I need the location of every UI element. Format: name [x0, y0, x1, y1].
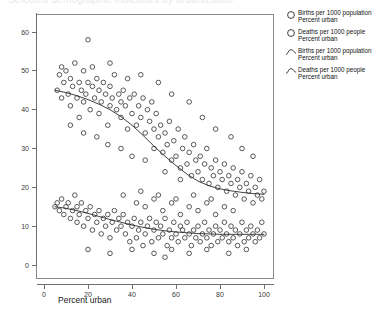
svg-text:0: 0 — [42, 291, 46, 298]
fit-curve-icon — [284, 65, 298, 78]
legend-item-deaths-points[interactable]: Deaths per 1000 people Percent urban — [284, 27, 384, 42]
chart-legend: Births per 1000 population Percent urban… — [284, 8, 384, 84]
legend-label-births-points: Births per 1000 population Percent urban — [298, 8, 372, 23]
svg-text:20: 20 — [21, 184, 29, 191]
svg-text:60: 60 — [172, 291, 180, 298]
legend-item-births-fit[interactable]: Births per 1000 population Percent urban — [284, 46, 384, 61]
open-circle-icon — [284, 27, 298, 40]
y-axis: 0102030405060 — [21, 13, 36, 269]
legend-item-births-points[interactable]: Births per 1000 population Percent urban — [284, 8, 384, 23]
series-points-births — [55, 37, 266, 205]
svg-text:0: 0 — [25, 262, 29, 269]
svg-text:60: 60 — [21, 29, 29, 36]
legend-label-deaths-fit: Deaths per 1000 people Percent urban — [298, 65, 365, 80]
x-axis-title: Percent urban — [58, 295, 112, 305]
legend-item-deaths-fit[interactable]: Deaths per 1000 people Percent urban — [284, 65, 384, 80]
svg-text:100: 100 — [258, 291, 270, 298]
legend-label-births-fit: Births per 1000 population Percent urban — [298, 46, 372, 61]
fit-curve-icon — [284, 46, 298, 59]
scatter-plot-figure: Selected demographic indicators by urban… — [0, 0, 386, 321]
fit-curve-births — [55, 90, 264, 194]
svg-text:40: 40 — [21, 106, 29, 113]
open-circle-icon — [284, 8, 298, 21]
svg-text:50: 50 — [21, 67, 29, 74]
svg-text:40: 40 — [128, 291, 136, 298]
svg-text:30: 30 — [21, 145, 29, 152]
series-points-deaths — [53, 189, 267, 260]
svg-text:80: 80 — [216, 291, 224, 298]
legend-label-deaths-points: Deaths per 1000 people Percent urban — [298, 27, 365, 42]
svg-text:10: 10 — [21, 223, 29, 230]
